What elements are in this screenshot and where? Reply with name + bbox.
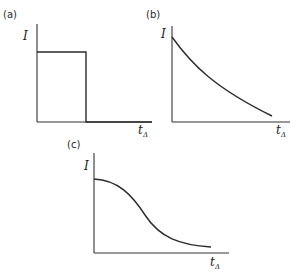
panel-b-curve: [172, 37, 272, 116]
panel-b-label: (b): [146, 9, 160, 20]
panel-b: (b) I t Δ: [146, 9, 290, 139]
panel-a: (a) I t Δ: [3, 9, 152, 139]
panel-c-ylabel: I: [83, 159, 89, 173]
panel-a-ylabel: I: [22, 29, 28, 43]
panel-c-xlabel-sub: Δ: [214, 263, 220, 271]
panel-b-ylabel: I: [160, 27, 166, 41]
panel-b-xlabel-sub: Δ: [280, 131, 286, 139]
panel-a-curve: [37, 52, 152, 122]
figure: (a) I t Δ (b) I t Δ (c) I t Δ: [0, 0, 299, 277]
panel-a-label: (a): [3, 9, 17, 20]
panel-a-xlabel-sub: Δ: [142, 131, 148, 139]
panel-c-label: (c): [67, 139, 80, 150]
panel-c: (c) I t Δ: [67, 139, 229, 271]
panel-c-curve: [94, 179, 211, 247]
